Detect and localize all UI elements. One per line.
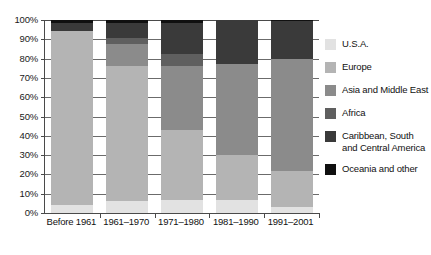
bar-5[interactable]: [271, 20, 313, 213]
legend-item[interactable]: Oceania and other: [325, 163, 431, 175]
x-axis-label-2: 1961–1970: [99, 216, 154, 227]
bar-segment: [106, 66, 148, 201]
legend-label-line1: Africa: [342, 107, 365, 118]
legend-item[interactable]: U.S.A.: [325, 38, 431, 50]
bar-segment: [271, 59, 313, 171]
x-axis-tick-mark: [319, 213, 320, 218]
legend-label-line1: Oceania and other: [342, 163, 418, 174]
legend-label-line2: and Central America: [342, 142, 425, 154]
legend-swatch-icon: [325, 131, 336, 142]
legend-swatch-icon: [325, 164, 336, 175]
x-axis-label-4: 1981–1990: [208, 216, 263, 227]
bar-segment: [271, 21, 313, 59]
legend-swatch-icon: [325, 62, 336, 73]
bar-3[interactable]: [161, 20, 203, 213]
bar-segment: [216, 64, 258, 155]
legend-item[interactable]: Europe: [325, 61, 431, 73]
legend-label: Africa: [342, 107, 365, 119]
bar-segment: [106, 201, 148, 213]
y-axis-tick-label: 50%: [20, 112, 38, 122]
bar-segment: [51, 205, 93, 213]
y-axis-tick-label: 80%: [20, 54, 38, 64]
y-axis: 0%10%20%30%40%50%60%70%80%90%100%: [0, 14, 42, 219]
bar-segment: [216, 20, 258, 64]
y-axis-tick-label: 60%: [20, 92, 38, 102]
bar-1[interactable]: [51, 20, 93, 213]
y-axis-tick-label: 40%: [20, 131, 38, 141]
legend-item[interactable]: Asia and Middle East: [325, 84, 431, 96]
legend-swatch-icon: [325, 108, 336, 119]
stacked-bar-chart: 0%10%20%30%40%50%60%70%80%90%100% Before…: [0, 0, 431, 255]
bar-segment: [51, 31, 93, 206]
y-axis-tick-label: 30%: [20, 150, 38, 160]
bar-segment: [161, 130, 203, 199]
y-axis-tick-label: 70%: [20, 73, 38, 83]
bar-segment: [161, 23, 203, 54]
legend-label: Asia and Middle East: [342, 84, 428, 96]
y-axis-tick-label: 10%: [20, 189, 38, 199]
y-axis-tick-label: 0%: [25, 208, 38, 218]
bar-segment: [161, 66, 203, 130]
bar-group: [45, 20, 319, 213]
bar-segment: [271, 171, 313, 208]
bar-segment: [216, 155, 258, 199]
bar-4[interactable]: [216, 20, 258, 213]
legend-label: Caribbean, Southand Central America: [342, 130, 425, 153]
x-axis-label-5: 1991–2001: [263, 216, 318, 227]
bar-2[interactable]: [106, 20, 148, 213]
legend-label-line1: Asia and Middle East: [342, 84, 428, 95]
legend-label: Oceania and other: [342, 163, 418, 175]
bar-segment: [161, 54, 203, 67]
bar-segment: [51, 23, 93, 31]
x-axis-label-3: 1971–1980: [154, 216, 209, 227]
bar-segment: [106, 44, 148, 66]
bar-segment: [106, 23, 148, 38]
legend-label: U.S.A.: [342, 38, 369, 50]
legend-label-line1: Europe: [342, 61, 372, 72]
bar-segment: [271, 207, 313, 213]
legend-label-line1: U.S.A.: [342, 38, 369, 49]
legend-item[interactable]: Africa: [325, 107, 431, 119]
y-axis-tick-mark: [41, 213, 45, 214]
x-axis-labels: Before 19611961–19701971–19801981–199019…: [44, 216, 318, 236]
legend-item[interactable]: Caribbean, Southand Central America: [325, 130, 431, 153]
bar-segment: [216, 200, 258, 214]
legend-label-line1: Caribbean, South: [342, 130, 414, 141]
bar-segment: [161, 200, 203, 214]
x-axis-label-1: Before 1961: [44, 216, 99, 227]
y-axis-tick-label: 90%: [20, 35, 38, 45]
plot-area: [44, 20, 319, 214]
y-axis-tick-label: 100%: [15, 15, 39, 25]
legend-swatch-icon: [325, 85, 336, 96]
legend-label: Europe: [342, 61, 372, 73]
y-axis-tick-label: 20%: [20, 170, 38, 180]
legend-swatch-icon: [325, 39, 336, 50]
chart-legend: U.S.A.EuropeAsia and Middle EastAfricaCa…: [325, 38, 431, 186]
